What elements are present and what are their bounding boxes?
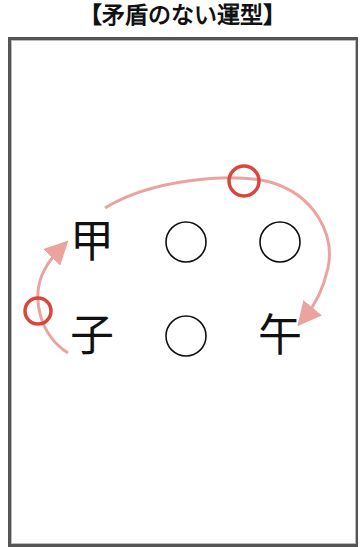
cell-kou: 甲: [70, 216, 114, 267]
cell-empty-2: [260, 222, 300, 262]
cell-ne: 子: [70, 310, 114, 361]
cell-uma: 午: [258, 310, 302, 361]
arc-arrow-top: [105, 178, 329, 317]
marker-ring-top: [229, 166, 259, 196]
cell-empty-1: [166, 222, 206, 262]
arc-arrow-left: [38, 249, 68, 353]
cell-empty-3: [166, 316, 206, 356]
